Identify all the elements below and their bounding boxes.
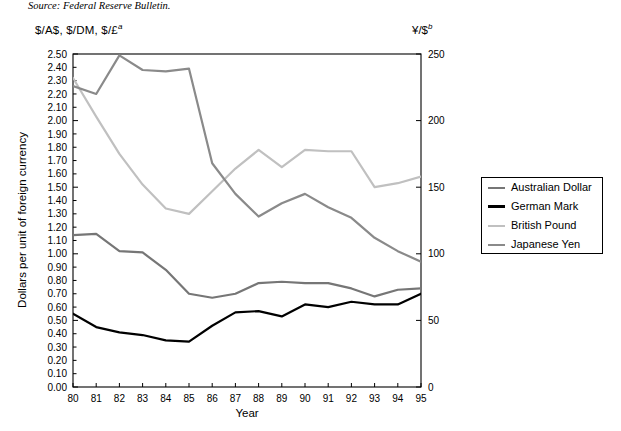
series-line-german-mark <box>73 294 421 342</box>
legend-label: Japanese Yen <box>511 239 580 250</box>
x-tick-label: 85 <box>183 393 195 404</box>
x-axis-ticks <box>73 383 421 387</box>
y2-tick-label: 50 <box>428 315 440 326</box>
y-tick-label: 1.60 <box>48 168 68 179</box>
legend-label: Australian Dollar <box>511 182 592 193</box>
x-axis-title: Year <box>235 407 258 419</box>
x-tick-label: 89 <box>276 393 288 404</box>
series-line-australian-dollar <box>73 234 421 298</box>
legend-label: German Mark <box>511 201 578 212</box>
legend-swatch-icon <box>488 244 505 246</box>
y-tick-label: 1.20 <box>48 222 68 233</box>
x-tick-label: 90 <box>299 393 311 404</box>
x-tick-label: 94 <box>392 393 404 404</box>
plot-frame <box>73 54 421 387</box>
y-tick-label: 0.40 <box>48 328 68 339</box>
legend-label: British Pound <box>511 220 576 231</box>
y-tick-label: 1.70 <box>48 155 68 166</box>
y-tick-label: 1.00 <box>48 248 68 259</box>
y-tick-label: 2.50 <box>48 49 68 60</box>
y-tick-label: 0.80 <box>48 275 68 286</box>
x-tick-label: 86 <box>207 393 219 404</box>
legend: Australian DollarGerman MarkBritish Poun… <box>481 177 603 254</box>
y2-tick-label: 0 <box>428 382 434 393</box>
y-tick-label: 2.40 <box>48 62 68 73</box>
x-tick-label: 95 <box>415 393 427 404</box>
legend-item-british-pound[interactable]: British Pound <box>482 216 602 235</box>
y-tick-label: 0.90 <box>48 262 68 273</box>
y-tick-label: 0.20 <box>48 355 68 366</box>
y-tick-label: 1.40 <box>48 195 68 206</box>
y-tick-label: 0.70 <box>48 288 68 299</box>
x-tick-label: 83 <box>137 393 149 404</box>
y-tick-label: 2.30 <box>48 75 68 86</box>
y-tick-label: 0.50 <box>48 315 68 326</box>
x-axis-tick-labels: 80818283848586878889909192939495 <box>67 393 427 404</box>
legend-swatch-icon <box>488 205 505 208</box>
y2-tick-label: 100 <box>428 248 445 259</box>
y-tick-label: 1.50 <box>48 182 68 193</box>
x-tick-label: 91 <box>323 393 335 404</box>
series-line-british-pound <box>73 78 421 214</box>
left-axis-tick-labels: 2.502.402.302.202.102.001.901.801.701.60… <box>48 49 68 393</box>
y-tick-label: 0.30 <box>48 342 68 353</box>
right-axis-ticks <box>416 54 421 387</box>
legend-item-german-mark[interactable]: German Mark <box>482 197 602 216</box>
y-tick-label: 2.10 <box>48 102 68 113</box>
x-tick-label: 82 <box>114 393 126 404</box>
series-lines <box>73 55 421 341</box>
legend-swatch-icon <box>488 187 505 189</box>
y2-tick-label: 250 <box>428 49 445 60</box>
left-axis-ticks <box>73 54 78 387</box>
x-tick-label: 87 <box>230 393 242 404</box>
y2-tick-label: 200 <box>428 115 445 126</box>
y-tick-label: 1.90 <box>48 129 68 140</box>
y-tick-label: 0.10 <box>48 368 68 379</box>
right-axis-tick-labels: 250200150100500 <box>428 49 445 393</box>
x-tick-label: 84 <box>160 393 172 404</box>
y-tick-label: 1.80 <box>48 142 68 153</box>
x-tick-label: 88 <box>253 393 265 404</box>
x-tick-label: 81 <box>91 393 103 404</box>
y2-tick-label: 150 <box>428 182 445 193</box>
legend-item-japanese-yen[interactable]: Japanese Yen <box>482 235 602 254</box>
y-tick-label: 2.00 <box>48 115 68 126</box>
y-axis-title: Dollars per unit of foreign currency <box>16 132 28 308</box>
y-tick-label: 1.30 <box>48 208 68 219</box>
x-tick-label: 93 <box>369 393 381 404</box>
x-tick-label: 92 <box>346 393 358 404</box>
y-tick-label: 1.10 <box>48 235 68 246</box>
x-tick-label: 80 <box>67 393 79 404</box>
y-tick-label: 0.00 <box>48 382 68 393</box>
legend-item-australian-dollar[interactable]: Australian Dollar <box>482 178 602 197</box>
y-tick-label: 2.20 <box>48 89 68 100</box>
y-tick-label: 0.60 <box>48 302 68 313</box>
legend-swatch-icon <box>488 225 505 227</box>
